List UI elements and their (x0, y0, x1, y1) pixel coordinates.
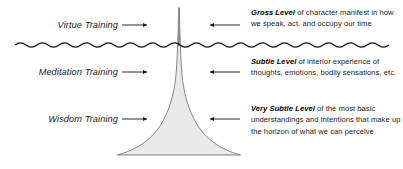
description-gross-level-lead: Gross Level (251, 8, 295, 17)
label-wisdom-training: Wisdom Training (0, 114, 118, 124)
description-subtle-level: Subtle Level of interior experience of t… (251, 56, 403, 79)
wavy-surface-line (15, 43, 389, 47)
diagram-canvas: Virtue Training Meditation Training Wisd… (0, 0, 403, 169)
description-subtle-level-lead: Subtle Level (251, 57, 296, 66)
description-very-subtle-level: Very Subtle Level of the most basic unde… (251, 103, 403, 137)
label-meditation-training: Meditation Training (0, 67, 118, 77)
description-very-subtle-level-lead: Very Subtle Level (251, 104, 315, 113)
label-virtue-training: Virtue Training (0, 20, 118, 30)
description-gross-level: Gross Level of character manifest in how… (251, 7, 403, 30)
